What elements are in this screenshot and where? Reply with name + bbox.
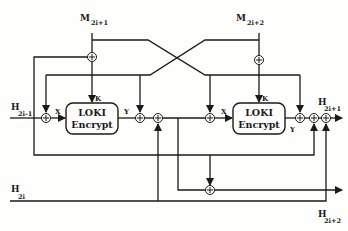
svg-text:M: M bbox=[236, 13, 246, 23]
xor-icon bbox=[310, 114, 319, 123]
port-k-left: K bbox=[95, 94, 102, 103]
label-m-2i+2: M 2i+2 bbox=[236, 13, 264, 27]
svg-text:2i+1: 2i+1 bbox=[324, 105, 341, 113]
port-y-left: Y bbox=[123, 107, 130, 116]
loki-encrypt-block-left: LOKI Encrypt bbox=[66, 103, 118, 134]
xor-icon bbox=[322, 114, 331, 123]
block-title: LOKI bbox=[78, 107, 106, 118]
svg-text:2i: 2i bbox=[18, 193, 26, 201]
svg-text:2i-1: 2i-1 bbox=[18, 110, 32, 118]
block-subtitle: Encrypt bbox=[71, 119, 113, 130]
label-h-2i+2: H 2i+2 bbox=[318, 209, 341, 225]
svg-text:2i+1: 2i+1 bbox=[91, 19, 108, 27]
xor-icon bbox=[88, 53, 97, 62]
xor-icon bbox=[296, 114, 305, 123]
label-h-2i-1: H 2i-1 bbox=[11, 102, 32, 118]
port-k-right: K bbox=[262, 94, 269, 103]
connection-lines bbox=[10, 33, 342, 201]
xor-icon bbox=[255, 56, 264, 65]
xor-icon bbox=[206, 186, 215, 195]
label-h-2i+1: H 2i+1 bbox=[318, 97, 341, 113]
diagram-canvas: LOKI Encrypt LOKI Encrypt X K Y X K Y M … bbox=[0, 0, 348, 231]
block-subtitle: Encrypt bbox=[238, 119, 280, 130]
loki-encrypt-block-right: LOKI Encrypt bbox=[233, 103, 285, 134]
svg-text:2i+2: 2i+2 bbox=[324, 217, 341, 225]
block-title: LOKI bbox=[245, 107, 273, 118]
xor-icon bbox=[136, 114, 145, 123]
port-y-right: Y bbox=[289, 125, 296, 134]
port-x-left: X bbox=[55, 107, 61, 116]
loki-hash-diagram: LOKI Encrypt LOKI Encrypt X K Y X K Y M … bbox=[0, 0, 348, 231]
xor-icon bbox=[206, 114, 215, 123]
label-h-2i: H 2i bbox=[11, 184, 26, 201]
port-x-right: X bbox=[221, 107, 227, 116]
label-m-2i+1: M 2i+1 bbox=[80, 13, 108, 27]
svg-text:M: M bbox=[80, 13, 90, 23]
xor-icon bbox=[154, 114, 163, 123]
xor-icon bbox=[42, 114, 51, 123]
svg-text:2i+2: 2i+2 bbox=[247, 19, 264, 27]
